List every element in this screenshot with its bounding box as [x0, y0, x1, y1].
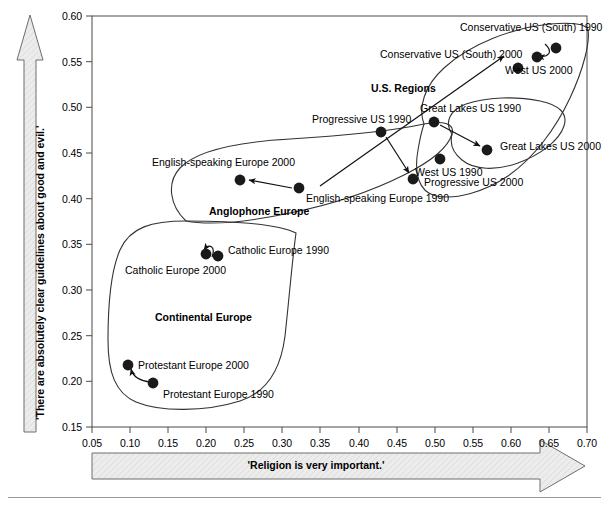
y-tick-label: 0.25 [50, 330, 82, 342]
x-tick-label: 0.35 [300, 437, 340, 449]
x-tick-label: 0.50 [415, 437, 455, 449]
point-label-protestant-europe-1990: Protestant Europe 1990 [163, 388, 274, 400]
x-tick-label: 0.05 [72, 437, 112, 449]
y-tick-label: 0.55 [50, 56, 82, 68]
x-tick-label: 0.15 [148, 437, 188, 449]
point-label-catholic-europe-2000: Catholic Europe 2000 [125, 264, 226, 276]
x-tick-label: 0.25 [224, 437, 264, 449]
y-tick-label: 0.50 [50, 101, 82, 113]
point-label-great-lakes-us-2000: Great Lakes US 2000 [500, 140, 588, 152]
y-tick-label: 0.35 [50, 238, 82, 250]
point-label-conservative-us-south-1990: Conservative US (South) 1990 [460, 21, 598, 33]
x-tick-label: 0.10 [110, 437, 150, 449]
point-label-great-lakes-us-1990: Great Lakes US 1990 [420, 102, 521, 114]
x-tick-label: 0.70 [567, 437, 607, 449]
y-tick-label: 0.60 [50, 10, 82, 22]
y-tick-label: 0.30 [50, 284, 82, 296]
y-tick-label: 0.40 [50, 193, 82, 205]
y-tick-label: 0.15 [50, 421, 82, 433]
chart-figure: 0.60 0.55 0.50 0.45 0.40 0.35 0.30 0.25 … [0, 0, 609, 509]
x-tick-label: 0.30 [262, 437, 302, 449]
point-label-english-speaking-europe-1990: English-speaking Europe 1990 [306, 192, 394, 204]
cluster-label-continental-europe: Continental Europe [155, 311, 252, 323]
x-tick-label: 0.20 [186, 437, 226, 449]
y-tick-label: 0.20 [50, 375, 82, 387]
point-label-protestant-europe-2000: Protestant Europe 2000 [138, 359, 249, 371]
y-tick-label: 0.45 [50, 147, 82, 159]
point-label-catholic-europe-1990: Catholic Europe 1990 [228, 244, 329, 256]
x-tick-label: 0.45 [377, 437, 417, 449]
x-tick-label: 0.60 [491, 437, 531, 449]
x-tick-label: 0.55 [453, 437, 493, 449]
x-axis-arrow-label: 'Religion is very important.' [92, 459, 540, 471]
y-axis-arrow-label: 'There are absolutely clear guidelines a… [34, 126, 46, 420]
x-tick-label: 0.40 [339, 437, 379, 449]
cluster-label-anglophone-europe: Anglophone Europe [209, 205, 309, 217]
footer-divider [8, 497, 601, 498]
point-label-west-us-2000: West US 2000 [505, 64, 573, 76]
point-label-progressive-us-1990: Progressive US 1990 [312, 113, 411, 125]
cluster-label-us-regions: U.S. Regions [371, 82, 436, 94]
point-label-conservative-us-south-2000: Conservative US (South) 2000 [380, 48, 518, 60]
x-tick-label: 0.65 [529, 437, 569, 449]
point-label-english-speaking-europe-2000: English-speaking Europe 2000 [152, 156, 240, 168]
point-label-west-us-1990: West US 1990 [415, 166, 483, 178]
